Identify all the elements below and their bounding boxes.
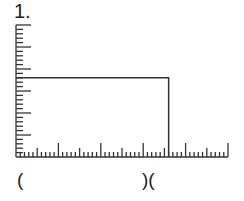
bottom-label-middle: )( — [142, 170, 155, 190]
bottom-label-left: ( — [17, 170, 23, 190]
y-axis — [16, 25, 31, 157]
chart-canvas — [0, 0, 244, 201]
chart-rectangle — [16, 78, 169, 157]
x-axis — [16, 143, 228, 157]
